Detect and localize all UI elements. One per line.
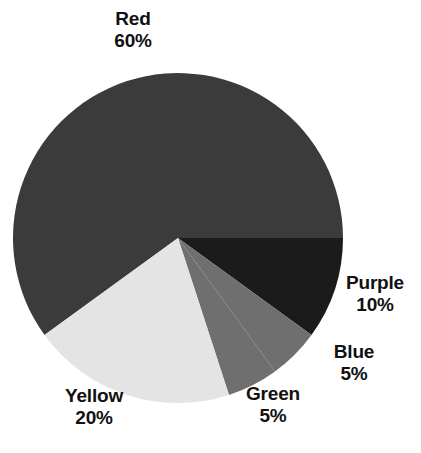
- pie-label-purple-value: 10%: [329, 294, 421, 316]
- pie-label-red-value: 60%: [78, 30, 188, 52]
- pie-label-blue-name: Blue: [314, 341, 394, 363]
- pie-label-green-name: Green: [231, 383, 315, 405]
- pie-label-red-name: Red: [78, 8, 188, 30]
- pie-label-green: Green 5%: [231, 383, 315, 428]
- pie-label-green-value: 5%: [231, 405, 315, 427]
- pie-label-blue: Blue 5%: [314, 341, 394, 386]
- pie-label-blue-value: 5%: [314, 363, 394, 385]
- pie-label-yellow: Yellow 20%: [39, 385, 149, 430]
- pie-label-yellow-name: Yellow: [39, 385, 149, 407]
- pie-label-purple-name: Purple: [329, 272, 421, 294]
- pie-label-yellow-value: 20%: [39, 407, 149, 429]
- pie-label-purple: Purple 10%: [329, 272, 421, 317]
- pie-chart: Red 60% Purple 10% Blue 5% Green 5% Yell…: [0, 0, 421, 453]
- pie-label-red: Red 60%: [78, 8, 188, 53]
- pie-slice-group: [13, 73, 343, 403]
